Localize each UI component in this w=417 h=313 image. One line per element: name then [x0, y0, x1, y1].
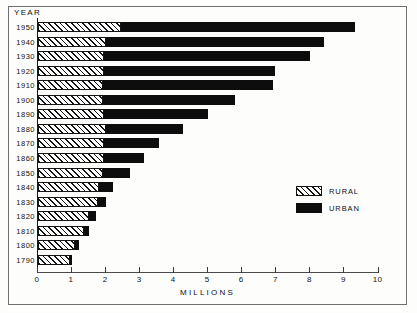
bar-segment-urban [121, 22, 354, 32]
legend-swatch-rural [296, 186, 322, 196]
bar-segment-rural [38, 182, 99, 192]
x-tick-label: 10 [373, 275, 383, 284]
year-label-1890: 1890 [11, 110, 35, 119]
x-tick [207, 267, 208, 273]
year-label-1900: 1900 [11, 96, 35, 105]
x-tick-label: 2 [103, 275, 108, 284]
legend-label-rural: RURAL [329, 187, 359, 196]
bar-segment-rural [38, 95, 103, 105]
bar-segment-rural [38, 211, 89, 221]
legend-label-urban: URBAN [329, 204, 360, 213]
bar-segment-urban [75, 240, 78, 250]
x-tick-label: 9 [341, 275, 346, 284]
year-label-1790: 1790 [11, 256, 35, 265]
x-tick [105, 267, 106, 273]
bar-segment-rural [38, 255, 70, 265]
year-label-1920: 1920 [11, 67, 35, 76]
year-label-1940: 1940 [11, 38, 35, 47]
x-axis-label: MILLIONS [37, 288, 378, 297]
year-label-1810: 1810 [11, 227, 35, 236]
bar-segment-rural [38, 138, 104, 148]
x-tick [241, 267, 242, 273]
year-label-1840: 1840 [11, 183, 35, 192]
x-tick [139, 267, 140, 273]
x-tick-label: 5 [205, 275, 210, 284]
bar-segment-urban [104, 138, 158, 148]
bar-segment-rural [38, 226, 84, 236]
x-tick-label: 1 [69, 275, 74, 284]
bar-segment-urban [70, 255, 72, 265]
x-tick [275, 267, 276, 273]
x-tick-label: 6 [239, 275, 244, 284]
year-label-1820: 1820 [11, 212, 35, 221]
x-tick-label: 7 [273, 275, 278, 284]
bar-segment-rural [38, 168, 103, 178]
year-label-1830: 1830 [11, 198, 35, 207]
bar-segment-urban [98, 197, 107, 207]
bar-segment-rural [38, 22, 121, 32]
x-tick-label: 3 [137, 275, 142, 284]
bar-segment-urban [104, 153, 143, 163]
bar-segment-rural [38, 197, 98, 207]
x-tick [173, 267, 174, 273]
legend-swatch-urban [296, 203, 322, 213]
bar-segment-rural [38, 153, 104, 163]
bar-segment-urban [103, 95, 236, 105]
bar-segment-rural [38, 66, 104, 76]
year-label-1870: 1870 [11, 139, 35, 148]
bar-segment-rural [38, 37, 106, 47]
year-label-1910: 1910 [11, 81, 35, 90]
bar-segment-urban [89, 211, 96, 221]
x-tick [309, 267, 310, 273]
bar-segment-rural [38, 109, 104, 119]
bar-segment-rural [38, 51, 104, 61]
bar-segment-urban [104, 51, 310, 61]
bar-segment-urban [84, 226, 89, 236]
x-tick-label: 4 [171, 275, 176, 284]
bar-segment-urban [103, 80, 273, 90]
bar-segment-urban [106, 37, 324, 47]
year-label-1860: 1860 [11, 154, 35, 163]
bar-segment-urban [103, 168, 130, 178]
bar-segment-rural [38, 80, 103, 90]
bar-segment-urban [104, 66, 274, 76]
year-label-1930: 1930 [11, 52, 35, 61]
bar-segment-rural [38, 240, 75, 250]
x-tick [343, 267, 344, 273]
year-label-1880: 1880 [11, 125, 35, 134]
year-axis-title: YEAR [14, 8, 41, 17]
year-label-1800: 1800 [11, 241, 35, 250]
x-tick-label: 8 [307, 275, 312, 284]
year-label-1950: 1950 [11, 23, 35, 32]
x-tick [71, 267, 72, 273]
bar-segment-rural [38, 124, 106, 134]
year-label-1850: 1850 [11, 169, 35, 178]
bar-segment-urban [106, 124, 183, 134]
bar-segment-urban [99, 182, 113, 192]
x-tick [37, 267, 38, 273]
bar-segment-urban [104, 109, 208, 119]
x-tick-label: 0 [35, 275, 40, 284]
x-tick [378, 267, 379, 273]
chart-figure: YEAR 012345678910 1950194019301920191019… [0, 0, 417, 313]
